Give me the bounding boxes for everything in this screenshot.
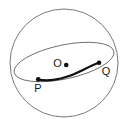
center-point-dot <box>64 63 69 68</box>
point-p-label: P <box>34 82 41 94</box>
point-q-dot <box>97 61 102 66</box>
center-point-label: O <box>53 57 62 69</box>
diagram-canvas: O P Q <box>0 0 127 129</box>
sphere-diagram: O P Q <box>0 0 127 129</box>
point-q-label: Q <box>102 65 111 77</box>
